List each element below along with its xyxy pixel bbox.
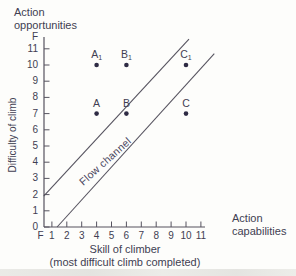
y-tick-label-8: 8	[14, 91, 38, 103]
point-label-B1: B1	[112, 48, 140, 64]
point-label-A: A	[83, 97, 111, 109]
x-axis-label-line1: Skill of climber	[0, 243, 250, 255]
point-label-B: B	[112, 97, 140, 109]
x-axis-label-line2: (most difficult climb completed)	[0, 256, 250, 268]
y-tick-label-0: 0	[14, 221, 38, 233]
y-tick-label-6: 6	[14, 124, 38, 136]
action-opportunities-line2: opportunities	[14, 19, 77, 31]
data-point-B	[124, 111, 129, 116]
flow-channel-figure: Actionopportunities Difficulty of climb …	[0, 0, 296, 276]
y-tick-label-7: 7	[14, 108, 38, 120]
y-tick-label-2: 2	[14, 189, 38, 201]
y-tick-label-3: 3	[14, 172, 38, 184]
point-label-C1: C1	[172, 48, 200, 64]
action-opportunities-label: Actionopportunities	[14, 6, 77, 32]
page-bottom-band	[0, 269, 296, 276]
y-tick-label-11: 11	[14, 43, 38, 55]
action-capabilities-label: Actioncapabilities	[232, 212, 286, 238]
y-tick-label-10: 10	[14, 59, 38, 71]
data-point-A	[94, 111, 99, 116]
x-tick-label-11: 11	[191, 230, 211, 242]
y-tick-label-5: 5	[14, 140, 38, 152]
action-capabilities-line1: Action	[232, 212, 263, 224]
flow-channel-lower-line	[57, 54, 214, 227]
action-capabilities-line2: capabilities	[232, 225, 286, 237]
y-tick-label-4: 4	[14, 156, 38, 168]
point-label-A1: A1	[83, 48, 111, 64]
action-opportunities-line1: Action	[14, 6, 45, 18]
data-point-C	[184, 111, 189, 116]
y-tick-label-9: 9	[14, 75, 38, 87]
y-tick-label-1: 1	[14, 205, 38, 217]
y-tick-label-F: F	[14, 31, 38, 43]
point-label-C: C	[172, 97, 200, 109]
